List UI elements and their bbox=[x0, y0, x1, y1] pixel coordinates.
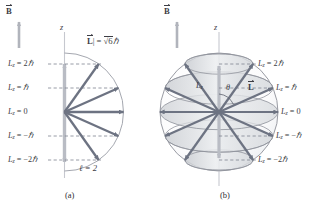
b-field-vector-text-a: B bbox=[6, 7, 12, 16]
caption-b: (b) bbox=[220, 191, 230, 200]
b-field-label-b: B bbox=[164, 7, 170, 16]
quantum-number-label-a: ℓ = 2 bbox=[79, 164, 97, 173]
magnitude-label-a: L| = √6ℏ bbox=[87, 37, 118, 46]
lz-label-a-2: Lz = 0 bbox=[8, 108, 28, 117]
lz-label-b-3: Lz = −ℏ bbox=[276, 132, 301, 141]
panel-a: z B L| = √6ℏ ℓ = 2 Lz = 2ℏ Lz = ℏ Lz = 0… bbox=[0, 0, 158, 211]
panel-b: z B Lz θ L Lz = 2ℏ Lz = ℏ Lz = 0 Lz = −ℏ… bbox=[158, 0, 317, 211]
lz-label-a-3: Lz = −ℏ bbox=[8, 132, 33, 141]
lz-label-a-1: Lz = ℏ bbox=[8, 84, 28, 93]
panel-a-graphics bbox=[0, 0, 158, 211]
panel-b-graphics bbox=[158, 0, 317, 211]
l-vector-label-b: L bbox=[248, 83, 254, 92]
lz-component-label-b: Lz bbox=[196, 82, 203, 91]
lz-label-a-4: Lz = −2ℏ bbox=[8, 156, 37, 165]
lz-label-b-0: Lz = 2ℏ bbox=[258, 60, 283, 69]
lz-label-b-2: Lz = 0 bbox=[281, 108, 301, 117]
theta-label-b: θ bbox=[226, 84, 230, 92]
b-field-label-a: B bbox=[6, 7, 12, 16]
angular-momentum-vectors-a bbox=[65, 64, 124, 160]
b-field-vector-text-b: B bbox=[164, 7, 170, 16]
caption-a: (a) bbox=[65, 191, 74, 200]
lz-label-b-4: Lz = −2ℏ bbox=[258, 156, 287, 165]
z-axis-label-b: z bbox=[214, 24, 217, 32]
lz-label-b-1: Lz = ℏ bbox=[276, 84, 296, 93]
z-axis-label-a: z bbox=[60, 24, 63, 32]
lz-label-a-0: Lz = 2ℏ bbox=[8, 60, 33, 69]
figure-orbital-angular-momentum-quantization: z B L| = √6ℏ ℓ = 2 Lz = 2ℏ Lz = ℏ Lz = 0… bbox=[0, 0, 317, 211]
